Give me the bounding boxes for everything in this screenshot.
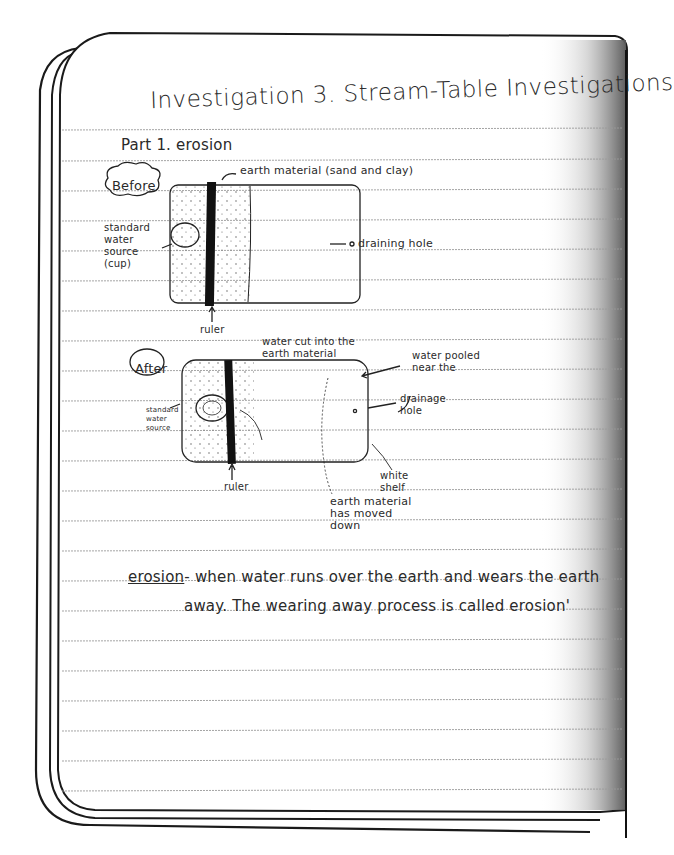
material-moved-annotation: earth material has moved down xyxy=(330,496,420,532)
ruler-annotation-after: ruler xyxy=(224,481,249,493)
definition-text-1: - when water runs over the earth and wea… xyxy=(184,568,599,586)
water-pooled-annotation: water pooled near the xyxy=(412,350,482,374)
water-source-annotation: standard water source (cup) xyxy=(104,222,162,270)
definition-term: erosion xyxy=(128,568,184,586)
white-shelf-annotation: white shelf xyxy=(380,470,416,494)
section-heading: Part 1. erosion xyxy=(121,136,232,154)
definition-line-1: erosion- when water runs over the earth … xyxy=(128,568,600,586)
after-label: After xyxy=(135,361,167,376)
before-label: Before xyxy=(112,178,156,193)
earth-material-annotation: earth material (sand and clay) xyxy=(240,165,413,177)
spine-shadow xyxy=(540,40,626,810)
drainage-hole-annotation: drainage hole xyxy=(400,393,450,417)
definition-line-2: away. The wearing away process is called… xyxy=(184,597,570,615)
ruler-annotation-before: ruler xyxy=(200,324,225,336)
water-source-annotation-after: standard water source xyxy=(146,406,178,433)
draining-hole-annotation: draining hole xyxy=(358,238,433,250)
water-cut-annotation: water cut into the earth material xyxy=(262,336,372,360)
